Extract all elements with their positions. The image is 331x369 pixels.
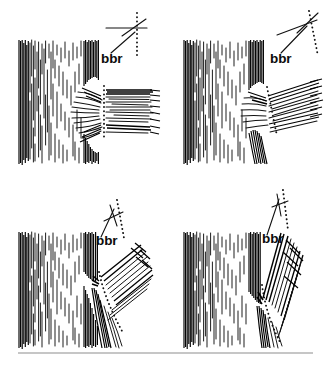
branch-bark-ridge-figure: bbr (0, 0, 331, 369)
bbr-label-bottom-right: bbr (262, 231, 284, 246)
figure-root: bbr (0, 0, 331, 369)
bbr-label-bottom-left: bbr (96, 233, 118, 248)
bbr-label-top-left: bbr (101, 51, 123, 66)
bbr-label-top-right: bbr (270, 51, 292, 66)
